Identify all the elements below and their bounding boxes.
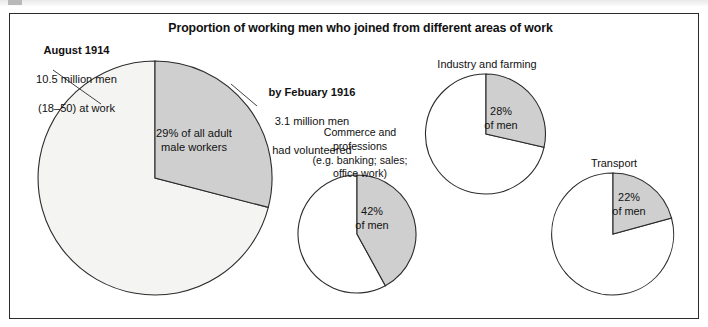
pie-data-label-industry: 28% of men — [472, 104, 530, 132]
pie-data-label-commerce: 42% of men — [343, 204, 401, 232]
figure-title: Proportion of working men who joined fro… — [148, 21, 573, 36]
pie-data-label-all-workers: 29% of all adult male workers — [139, 126, 249, 155]
pie-title-commerce: Commerce and professions (e.g. banking; … — [300, 126, 420, 181]
annotation-february-heading: by Febuary 1916 — [244, 85, 380, 99]
pie-commerce-and-professions — [298, 175, 416, 293]
annotation-august-line1: 10.5 million men — [36, 73, 117, 85]
annotation-august-line2: (18–50) at work — [38, 102, 115, 114]
pie-title-industry: Industry and farming — [424, 57, 550, 71]
pie-industry-and-farming — [425, 74, 545, 194]
annotation-august-1914: August 1914 10.5 million men (18–50) at … — [14, 29, 139, 116]
figure-page: Proportion of working men who joined fro… — [0, 0, 708, 327]
annotation-august-heading: August 1914 — [14, 43, 139, 57]
pie-title-transport: Transport — [560, 156, 668, 170]
pie-data-label-transport: 22% of men — [600, 190, 658, 218]
